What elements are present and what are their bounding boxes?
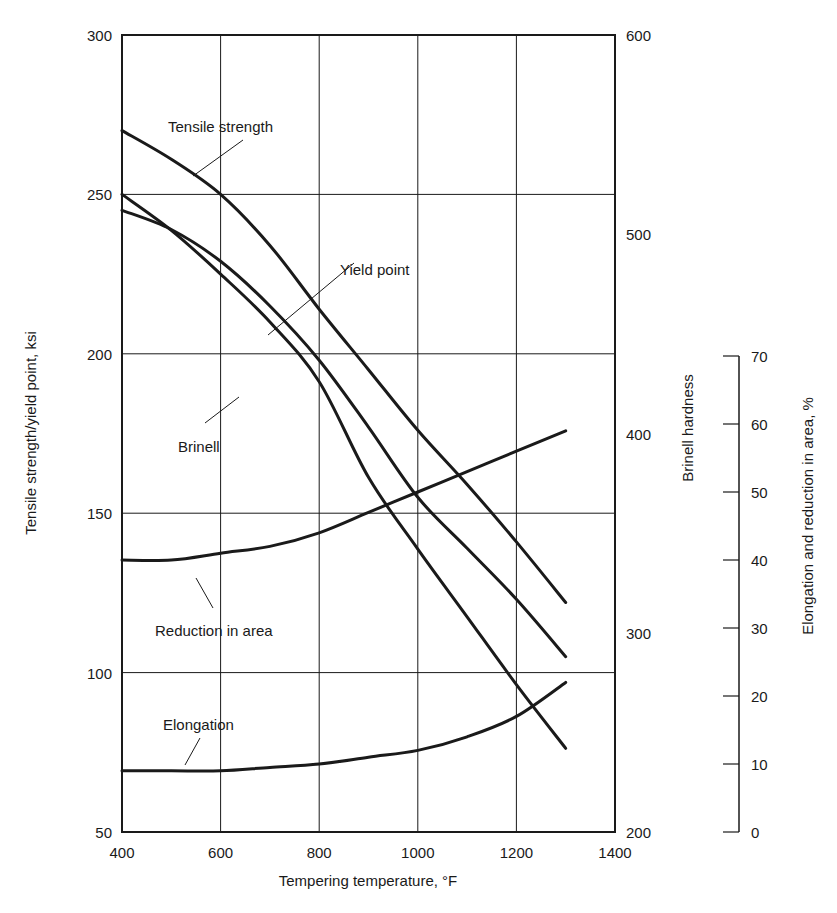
elongation-tick-label: 40 (751, 552, 768, 569)
elongation-tick-label: 60 (751, 416, 768, 433)
plot-frame (122, 35, 615, 832)
y-tick-label: 100 (87, 665, 112, 682)
y-tick-label: 200 (87, 346, 112, 363)
y-axis-title: Tensile strength/yield point, ksi (22, 331, 39, 534)
label-tensile-strength: Tensile strength (168, 118, 273, 135)
gridlines (122, 35, 615, 832)
x-tick-label: 1200 (500, 844, 533, 861)
x-tick-label: 800 (307, 844, 332, 861)
brinell-axis-ticks: 200300400500600 (626, 27, 651, 841)
label-brinell: Brinell (178, 438, 220, 455)
brinell-tick-label: 200 (626, 824, 651, 841)
elongation-tick-label: 0 (751, 824, 759, 841)
elongation-tick-label: 30 (751, 620, 768, 637)
y-tick-label: 50 (95, 824, 112, 841)
brinell-tick-label: 300 (626, 625, 651, 642)
brinell-axis-title: Brinell hardness (679, 374, 696, 482)
brinell-tick-label: 400 (626, 426, 651, 443)
y-tick-label: 250 (87, 186, 112, 203)
curve-tensile-strength (122, 131, 566, 603)
chart: 400600800100012001400 50100150200250300 … (0, 0, 837, 913)
elongation-axis-title: Elongation and reduction in area, % (799, 397, 816, 635)
elongation-tick-label: 70 (751, 348, 768, 365)
x-tick-label: 600 (208, 844, 233, 861)
x-tick-label: 1000 (401, 844, 434, 861)
y-tick-label: 300 (87, 27, 112, 44)
x-tick-label: 1400 (598, 844, 631, 861)
elongation-tick-label: 20 (751, 688, 768, 705)
label-elongation: Elongation (163, 716, 234, 733)
elongation-axis: 010203040506070 (723, 348, 768, 841)
elongation-tick-label: 10 (751, 756, 768, 773)
y-tick-label: 150 (87, 505, 112, 522)
label-reduction-in-area: Reduction in area (155, 622, 273, 639)
brinell-tick-label: 500 (626, 226, 651, 243)
x-axis-ticks: 400600800100012001400 (109, 844, 631, 861)
label-yield-point: Yield point (340, 261, 410, 278)
x-tick-label: 400 (109, 844, 134, 861)
brinell-tick-label: 600 (626, 27, 651, 44)
elongation-tick-label: 50 (751, 484, 768, 501)
y-axis-ticks: 50100150200250300 (87, 27, 112, 841)
x-axis-title: Tempering temperature, °F (279, 872, 458, 889)
